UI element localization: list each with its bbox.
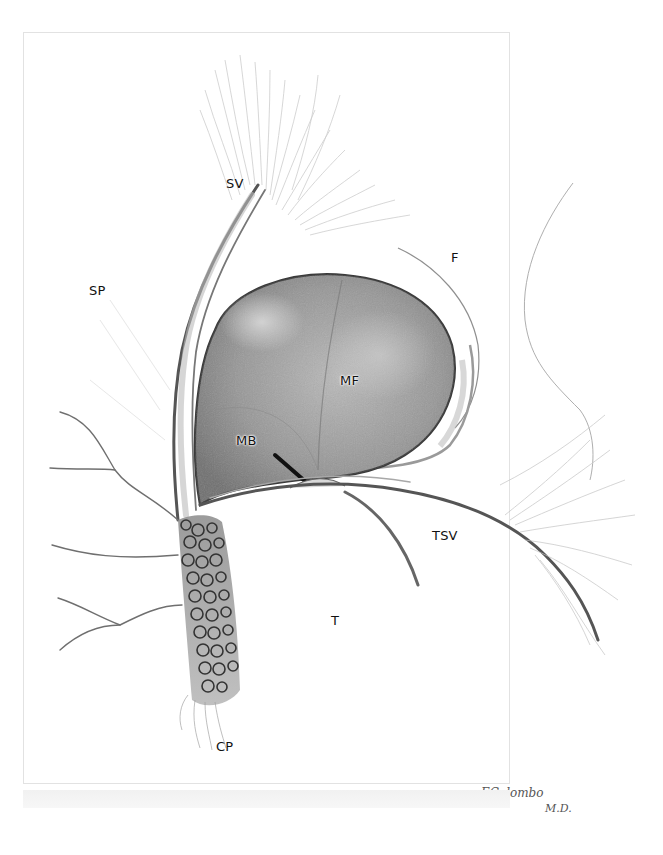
- label-f: F: [451, 250, 459, 265]
- label-sp: SP: [89, 283, 106, 298]
- label-tsv: TSV: [432, 528, 458, 543]
- label-sv: SV: [226, 176, 244, 191]
- artist-signature-suffix: M.D.: [545, 802, 572, 815]
- central-mass: [195, 274, 455, 505]
- label-mf: MF: [340, 373, 359, 388]
- sp-sketch-marks: [90, 300, 170, 440]
- upper-vein-fan: [200, 55, 410, 235]
- label-cp: CP: [216, 739, 233, 754]
- label-t: T: [331, 613, 339, 628]
- anatomical-illustration: [0, 0, 663, 855]
- caption-strip: [23, 790, 510, 808]
- label-mb: MB: [236, 433, 257, 448]
- left-branches: [50, 412, 182, 650]
- choroid-plexus: [178, 515, 240, 750]
